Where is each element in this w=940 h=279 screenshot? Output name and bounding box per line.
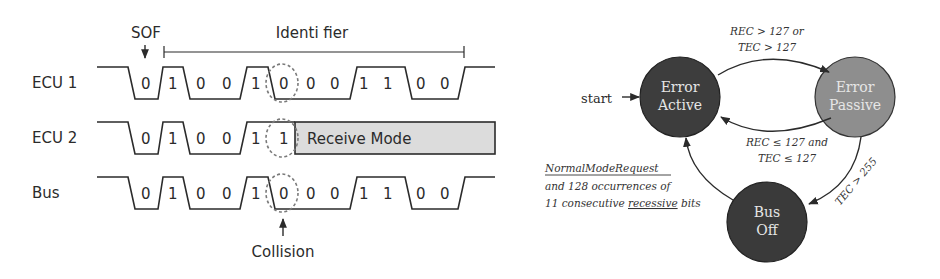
- busoff-to-active-condition: NormalModeRequest and 128 occurrences of…: [544, 162, 701, 209]
- svg-text:0: 0: [141, 130, 151, 148]
- svg-text:1: 1: [251, 75, 261, 93]
- svg-text:0: 0: [222, 75, 232, 93]
- svg-text:Passive: Passive: [829, 97, 881, 113]
- ecu2-bits: 0 1 0 0 1 1: [141, 130, 289, 148]
- svg-text:0: 0: [222, 185, 232, 203]
- timing-diagram: SOF Identi fier ECU 1 ECU 2 Bus 0 1 0 0 …: [32, 24, 495, 261]
- collision-label: Collision: [252, 243, 315, 261]
- identifier-label: Identi fier: [276, 24, 349, 42]
- transition-active-to-passive: [718, 59, 829, 75]
- svg-text:1: 1: [359, 75, 369, 93]
- svg-text:0: 0: [196, 185, 206, 203]
- svg-text:1: 1: [383, 185, 393, 203]
- svg-text:0: 0: [279, 75, 289, 93]
- svg-text:1: 1: [251, 130, 261, 148]
- row-label-bus: Bus: [32, 184, 60, 202]
- svg-text:Error: Error: [661, 79, 700, 95]
- sof-label: SOF: [131, 24, 161, 42]
- svg-text:0: 0: [196, 75, 206, 93]
- svg-text:1: 1: [251, 185, 261, 203]
- svg-text:REC ≤ 127 and: REC ≤ 127 and: [745, 136, 828, 148]
- svg-text:0: 0: [141, 75, 151, 93]
- svg-text:0: 0: [416, 75, 426, 93]
- bus-waveform: [97, 177, 495, 209]
- svg-text:0: 0: [141, 185, 151, 203]
- svg-text:TEC ≤ 127: TEC ≤ 127: [758, 152, 817, 164]
- svg-text:Error: Error: [836, 79, 875, 95]
- svg-text:0: 0: [330, 185, 340, 203]
- svg-text:0: 0: [416, 185, 426, 203]
- svg-text:0: 0: [306, 75, 316, 93]
- svg-text:Active: Active: [657, 97, 702, 113]
- state-bus-off: Bus Off: [727, 182, 807, 262]
- state-diagram: start Error Active Error Passive Bus Off…: [544, 25, 895, 262]
- svg-text:1: 1: [279, 130, 289, 148]
- svg-text:11 consecutive recessive bits: 11 consecutive recessive bits: [545, 197, 701, 209]
- row-label-ecu2: ECU 2: [32, 129, 77, 147]
- svg-text:0: 0: [440, 75, 450, 93]
- svg-text:0: 0: [279, 185, 289, 203]
- svg-text:0: 0: [306, 185, 316, 203]
- svg-text:Off: Off: [756, 222, 778, 238]
- svg-text:1: 1: [168, 75, 178, 93]
- svg-text:Bus: Bus: [754, 204, 781, 220]
- figure: SOF Identi fier ECU 1 ECU 2 Bus 0 1 0 0 …: [0, 0, 940, 279]
- svg-text:REC > 127 or: REC > 127 or: [729, 25, 805, 37]
- identifier-bracket: [164, 46, 464, 58]
- start-label: start: [581, 91, 613, 106]
- svg-text:1: 1: [383, 75, 393, 93]
- svg-text:TEC > 127: TEC > 127: [738, 41, 797, 53]
- svg-text:1: 1: [168, 185, 178, 203]
- svg-text:NormalModeRequest: NormalModeRequest: [544, 162, 659, 174]
- transition-passive-to-active: [721, 117, 831, 131]
- svg-text:1: 1: [359, 185, 369, 203]
- svg-text:0: 0: [222, 130, 232, 148]
- transition-busoff-to-active: [686, 138, 733, 200]
- svg-text:TEC > 255: TEC > 255: [832, 155, 879, 208]
- svg-text:1: 1: [168, 130, 178, 148]
- svg-text:0: 0: [196, 130, 206, 148]
- svg-text:0: 0: [330, 75, 340, 93]
- state-error-passive: Error Passive: [815, 57, 895, 137]
- receive-mode-label: Receive Mode: [307, 130, 411, 148]
- state-error-active: Error Active: [640, 57, 720, 137]
- ecu1-waveform: [97, 67, 495, 99]
- svg-text:and 128 occurrences of: and 128 occurrences of: [545, 180, 672, 192]
- svg-text:0: 0: [440, 185, 450, 203]
- row-label-ecu1: ECU 1: [32, 74, 77, 92]
